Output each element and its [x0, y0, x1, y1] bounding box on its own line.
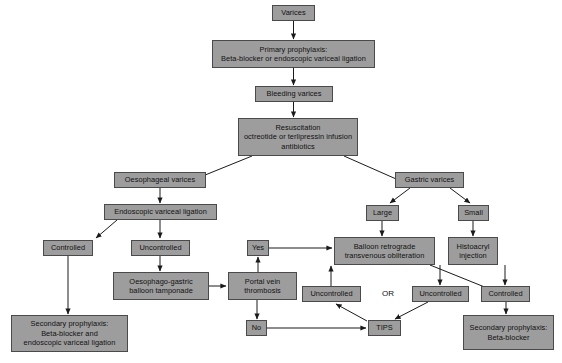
node-small[interactable]: Small — [458, 205, 489, 221]
node-histoacryl[interactable]: Histoacryl injection — [448, 237, 498, 265]
node-gastric-varices[interactable]: Gastric varices — [395, 172, 464, 188]
node-balloon-retrograde[interactable]: Balloon retrograde transvenous obliterat… — [334, 237, 435, 265]
node-portal-vein-thrombosis[interactable]: Portal vein thrombosis — [228, 272, 297, 300]
flowchart-canvas: VaricesPrimary prophylaxis: Beta-blocker… — [0, 0, 562, 363]
node-bleeding-varices[interactable]: Bleeding varices — [255, 86, 333, 102]
node-no[interactable]: No — [246, 320, 267, 336]
edge-gastric-varices-to-small — [450, 188, 470, 203]
edge-endoscopic-variceal-ligation-to-controlled-left — [96, 220, 117, 238]
node-large[interactable]: Large — [366, 205, 399, 221]
node-uncontrolled-right[interactable]: Uncontrolled — [412, 286, 469, 302]
node-primary-prophylaxis[interactable]: Primary prophylaxis: Beta-blocker or end… — [212, 40, 375, 68]
node-endoscopic-variceal-ligation[interactable]: Endoscopic variceal ligation — [104, 204, 217, 220]
edge-tips-to-uncontrolled-middle — [336, 304, 367, 321]
node-resuscitation[interactable]: Resuscitation octreotide or terlipressin… — [238, 118, 358, 156]
label-or-connector: OR — [377, 286, 399, 302]
node-tips[interactable]: TIPS — [368, 320, 401, 336]
node-uncontrolled-middle[interactable]: Uncontrolled — [302, 286, 361, 302]
edge-uncontrolled-right-to-tips — [395, 302, 428, 319]
node-controlled-right[interactable]: Controlled — [481, 286, 530, 302]
node-secondary-prophylaxis-left[interactable]: Secondary prophylaxis: Beta-blocker and … — [11, 315, 128, 352]
edge-gastric-varices-to-large — [390, 188, 410, 203]
node-oesophago-gastric-balloon[interactable]: Oesophago-gastric balloon tamponade — [113, 272, 209, 300]
node-oesophageal-varices[interactable]: Oesophageal varices — [114, 172, 206, 188]
node-varices[interactable]: Varices — [272, 5, 315, 21]
node-secondary-prophylaxis-right[interactable]: Secondary prophylaxis: Beta-blocker — [463, 315, 554, 350]
node-controlled-left[interactable]: Controlled — [43, 240, 93, 256]
node-yes[interactable]: Yes — [247, 240, 269, 256]
node-uncontrolled-left[interactable]: Uncontrolled — [131, 240, 190, 256]
